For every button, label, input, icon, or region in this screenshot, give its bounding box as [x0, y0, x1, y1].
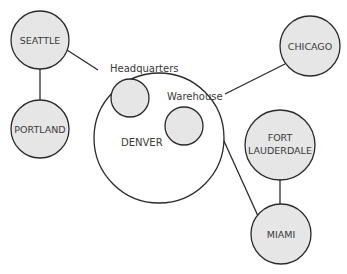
portland-label: PORTLAND — [14, 124, 65, 135]
hub-denver[interactable]: Headquarters Warehouse DENVER — [94, 63, 224, 203]
site-seattle[interactable]: SEATTLE — [11, 11, 69, 69]
site-fort-lauderdale[interactable]: FORT LAUDERDALE — [245, 110, 315, 180]
warehouse-node[interactable] — [165, 107, 203, 145]
seattle-label: SEATTLE — [20, 35, 61, 46]
miami-label: MIAMI — [267, 229, 296, 240]
link-denver-chicago — [225, 64, 285, 94]
fort-lauderdale-label-line1: FORT — [268, 132, 293, 143]
chicago-label: CHICAGO — [288, 41, 332, 52]
link-seattle-denver — [67, 50, 98, 70]
network-diagram: Headquarters Warehouse DENVER SEATTLE PO… — [0, 0, 347, 274]
site-portland[interactable]: PORTLAND — [11, 100, 69, 158]
site-chicago[interactable]: CHICAGO — [280, 16, 340, 76]
warehouse-label: Warehouse — [167, 91, 223, 102]
fort-lauderdale-label-line2: LAUDERDALE — [248, 145, 312, 156]
headquarters-label: Headquarters — [110, 63, 178, 74]
denver-label: DENVER — [121, 137, 163, 148]
site-miami[interactable]: MIAMI — [251, 204, 311, 264]
headquarters-node[interactable] — [111, 79, 149, 117]
